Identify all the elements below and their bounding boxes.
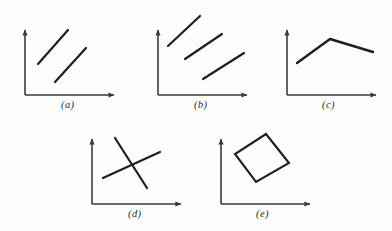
panel-a-caption: (a) [61,99,74,110]
panel-e [221,134,310,204]
panel-d [92,138,181,204]
panel-b-middle-segment [185,34,222,59]
panel-e-closed-quadrilateral [235,134,289,182]
panel-b-upper-segment [168,16,200,46]
panel-d-caption: (d) [128,208,141,219]
panel-d-ascending-segment [103,152,160,178]
panel-a-upper-segment [38,30,68,64]
figure-canvas [0,0,392,231]
panel-a-lower-segment [55,48,86,82]
panel-b-caption: (b) [194,99,207,110]
panel-e-caption: (e) [256,208,269,219]
panel-c-caption: (c) [322,99,335,110]
panel-d-descending-segment [115,138,147,188]
panel-c-peak-polyline [297,39,373,63]
panel-b-lower-segment [203,53,244,79]
panel-c [287,30,376,95]
panel-b [158,16,247,95]
panel-a [25,30,114,95]
figure-container: (a) (b) (c) (d) (e) [0,0,392,231]
